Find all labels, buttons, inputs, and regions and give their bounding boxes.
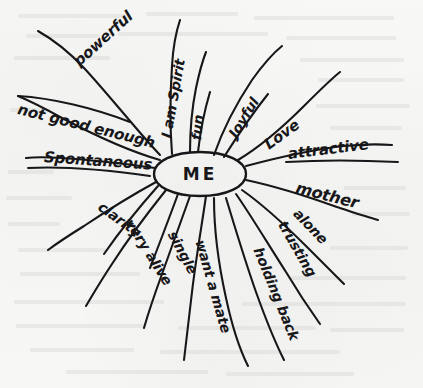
center-node-label: ME bbox=[183, 164, 218, 184]
mind-map-page: ME powerful I am Spirit fun Joyful Love … bbox=[0, 0, 423, 388]
branch-label-fun[interactable]: fun bbox=[188, 114, 207, 141]
